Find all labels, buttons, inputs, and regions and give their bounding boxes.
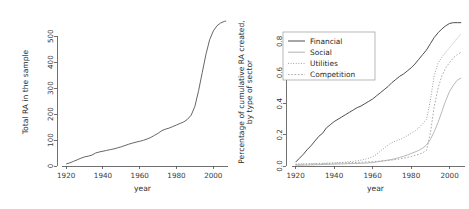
legend-label-utilities: Utilities	[310, 59, 338, 68]
series-social	[295, 78, 461, 165]
series-total ra	[66, 21, 226, 164]
sector-share-chart: 0.00.20.40.60.819201940196019802000yearP…	[235, 0, 469, 209]
total-ra-chart: 010020030040050019201940196019802000year…	[0, 0, 235, 209]
y-tick-label: 500	[46, 29, 55, 43]
x-tick-label: 2000	[204, 171, 223, 180]
legend: FinancialSocialUtilitiesCompetition	[283, 32, 375, 80]
figure-container: 010020030040050019201940196019802000year…	[0, 0, 469, 209]
y-tick-label: 300	[46, 81, 55, 95]
x-tick-label: 1940	[324, 171, 343, 180]
x-axis: 19201940196019802000	[57, 166, 228, 180]
y-tick-label: 0	[46, 163, 55, 168]
legend-label-competition: Competition	[310, 70, 356, 79]
x-axis-label: year	[367, 184, 385, 193]
x-tick-label: 1940	[94, 171, 113, 180]
x-axis-label: year	[134, 184, 152, 193]
x-tick-label: 1920	[286, 171, 305, 180]
legend-label-social: Social	[310, 48, 332, 57]
right-panel: 0.00.20.40.60.819201940196019802000yearP…	[235, 0, 469, 209]
legend-label-financial: Financial	[310, 37, 342, 46]
y-tick-label: 100	[46, 133, 55, 147]
x-tick-label: 1980	[167, 171, 186, 180]
y-axis: 0100200300400500	[46, 29, 57, 168]
x-tick-label: 1960	[363, 171, 382, 180]
x-tick-label: 2000	[440, 171, 459, 180]
y-axis-label: by type of sector	[245, 59, 254, 124]
y-tick-label: 400	[46, 55, 55, 69]
x-tick-label: 1980	[401, 171, 420, 180]
y-tick-label: 0.2	[275, 129, 284, 140]
x-tick-label: 1920	[57, 171, 76, 180]
y-axis-label: Total RA in the sample	[21, 49, 30, 135]
y-tick-label: 0.0	[275, 160, 284, 172]
left-panel: 010020030040050019201940196019802000year…	[0, 0, 235, 209]
x-axis: 19201940196019802000	[286, 166, 465, 180]
x-tick-label: 1960	[131, 171, 150, 180]
y-tick-label: 200	[46, 107, 55, 121]
y-tick-label: 0.4	[275, 98, 284, 110]
